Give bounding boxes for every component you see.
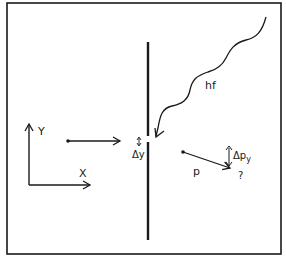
momentum-uncertainty: Δpy ? bbox=[226, 146, 251, 181]
slit-width-label: Δy bbox=[132, 149, 145, 160]
x-axis-label: X bbox=[79, 167, 87, 180]
photon-wave bbox=[156, 17, 266, 136]
outgoing-particle: p bbox=[181, 150, 230, 178]
photon: hf bbox=[155, 17, 266, 137]
outgoing-momentum-arrow bbox=[183, 152, 230, 168]
incoming-particle bbox=[66, 139, 120, 143]
delta-py-base: Δp bbox=[233, 150, 246, 161]
coordinate-axes: Y X bbox=[29, 124, 90, 185]
unknown-label: ? bbox=[238, 170, 243, 181]
y-axis-label: Y bbox=[37, 125, 45, 138]
photon-label: hf bbox=[205, 79, 217, 92]
diagram-frame bbox=[7, 3, 281, 254]
delta-py-subscript: y bbox=[246, 155, 251, 164]
momentum-label: p bbox=[193, 165, 200, 178]
delta-py-label: Δpy bbox=[233, 150, 251, 164]
slit-width-indicator: Δy bbox=[132, 137, 145, 160]
diagram-canvas: Y X Δy hf p Δpy ? bbox=[0, 0, 286, 260]
